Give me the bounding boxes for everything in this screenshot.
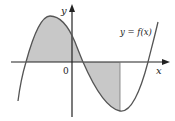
function-graph: y x 0 y = f(x) (0, 0, 175, 121)
y-axis-label: y (60, 5, 67, 16)
shaded-region-right (83, 62, 120, 111)
origin-label: 0 (63, 66, 69, 76)
shaded-region-left (26, 16, 83, 62)
y-axis-arrow-icon (69, 4, 75, 12)
function-label: y = f(x) (119, 27, 152, 37)
x-axis-label: x (156, 65, 162, 76)
x-axis-arrow-icon (162, 59, 170, 65)
